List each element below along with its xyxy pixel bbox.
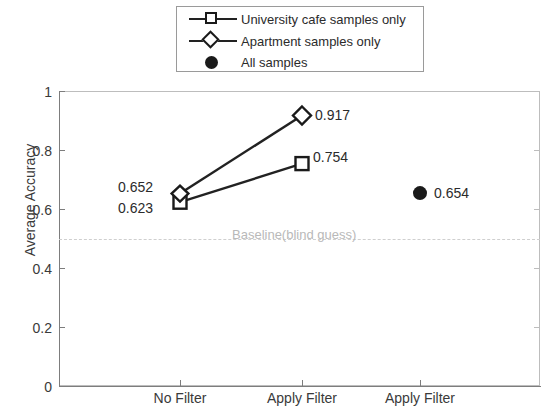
marker-circle-all-samples xyxy=(413,186,427,200)
chart-figure: University cafe samples only Apartment s… xyxy=(0,0,546,414)
point-label-apartment-apply-filter: 0.917 xyxy=(315,108,350,122)
data-series-layer xyxy=(0,0,546,414)
marker-diamond-apply-filter xyxy=(293,107,311,125)
point-label-cafe-apply-filter: 0.754 xyxy=(313,150,348,164)
point-label-cafe-no-filter: 0.623 xyxy=(118,201,153,215)
point-label-all-samples: 0.654 xyxy=(434,186,469,200)
marker-square-apply-filter xyxy=(296,157,309,170)
point-label-apartment-no-filter: 0.652 xyxy=(118,180,153,194)
